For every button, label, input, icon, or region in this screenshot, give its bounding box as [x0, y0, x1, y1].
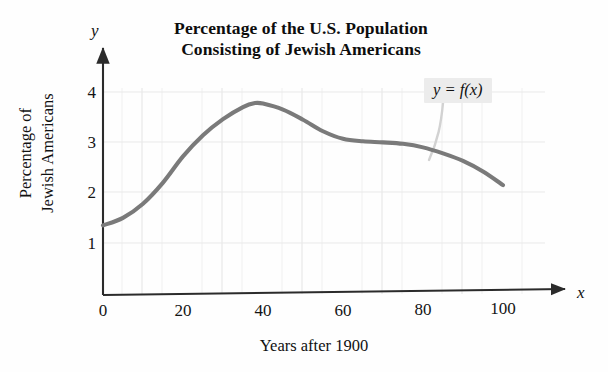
chart-figure: Percentage of the U.S. Population Consis… [0, 0, 608, 372]
y-tick-label-3: 3 [74, 133, 96, 153]
x-tick-label-80: 80 [401, 300, 445, 320]
y-axis-title-line-1: Percentage of [16, 108, 35, 198]
y-tick-label-1: 1 [74, 234, 96, 254]
y-tick-label-2: 2 [74, 183, 96, 203]
y-axis-letter: y [91, 21, 99, 41]
x-axis-title: Years after 1900 [184, 336, 444, 356]
y-tick-label-4: 4 [74, 83, 96, 103]
x-tick-label-20: 20 [161, 301, 205, 321]
y-axis-title-line-2: Jewish Americans [37, 53, 59, 253]
x-tick-label-60: 60 [321, 301, 365, 321]
data-curve-y-equals-f-of-x [103, 103, 503, 226]
function-annotation-label: y = f(x) [424, 78, 492, 103]
x-tick-label-100: 100 [481, 299, 525, 319]
x-axis-letter: x [577, 283, 585, 303]
x-axis-line [103, 289, 565, 295]
x-tick-label-0: 0 [81, 301, 125, 321]
x-tick-label-40: 40 [241, 301, 285, 321]
y-axis-title: Percentage of Jewish Americans [15, 53, 59, 253]
